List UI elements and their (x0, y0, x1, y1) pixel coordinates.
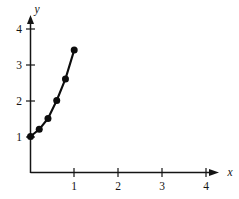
y-tick-label-3: 3 (16, 59, 22, 71)
data-point (71, 47, 78, 54)
y-axis-label: y (33, 3, 40, 16)
y-tick-label-4: 4 (16, 23, 22, 35)
x-tick-label-2: 2 (115, 180, 121, 192)
data-point (62, 75, 69, 82)
y-tick-label-2: 2 (16, 95, 22, 107)
y-tick-label-1: 1 (16, 131, 22, 143)
data-point (36, 126, 43, 133)
data-series-line (31, 50, 75, 136)
x-tick-label-3: 3 (159, 180, 165, 192)
plot-figure: 1 2 3 4 1 2 3 4 y x (0, 0, 239, 199)
x-axis-label: x (226, 166, 233, 178)
line-chart: 1 2 3 4 1 2 3 4 y x (0, 0, 239, 199)
data-point (53, 97, 60, 104)
x-tick-label-4: 4 (203, 180, 209, 192)
arrow-up-icon (27, 15, 34, 24)
x-tick-label-1: 1 (71, 180, 77, 192)
data-point (44, 115, 51, 122)
data-point (27, 133, 34, 140)
arrow-right-icon (209, 169, 219, 176)
